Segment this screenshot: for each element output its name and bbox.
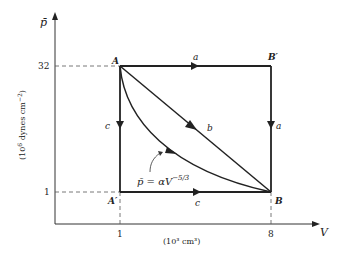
tick-8-x: 8 — [268, 229, 274, 239]
point-A: A — [111, 56, 119, 66]
point-A-prime: A′ — [107, 196, 118, 206]
label-c-bottom: c — [195, 198, 200, 208]
tick-32: 32 — [38, 61, 49, 71]
x-axis-symbol: V — [320, 226, 329, 239]
arrow-c-left-icon — [116, 121, 124, 129]
point-B-prime: B′ — [267, 52, 279, 62]
pv-diagram: p̄ V 32 1 1 8 A B′ A′ B a a c c b p̄ = α… — [0, 0, 350, 255]
tick-1-x: 1 — [117, 229, 123, 239]
x-axis-units: (10³ cm³) — [163, 237, 200, 246]
y-axis-symbol: p̄ — [40, 16, 47, 29]
tick-1-y: 1 — [44, 187, 50, 197]
arrow-c-bottom-icon — [193, 188, 201, 196]
arrow-a-top-icon — [191, 62, 199, 70]
label-b: b — [207, 123, 213, 133]
y-axis-units: (106 dynes cm−2) — [16, 90, 27, 160]
point-B: B — [274, 196, 283, 206]
label-c-left: c — [105, 121, 110, 131]
arrow-curve-icon — [165, 147, 177, 154]
label-a-right: a — [276, 121, 281, 131]
arrow-a-right-icon — [267, 121, 275, 129]
curve-pointer — [150, 153, 160, 172]
curve-equation: p̄ = αV−5/3 — [137, 174, 190, 187]
label-a-top: a — [193, 52, 198, 62]
